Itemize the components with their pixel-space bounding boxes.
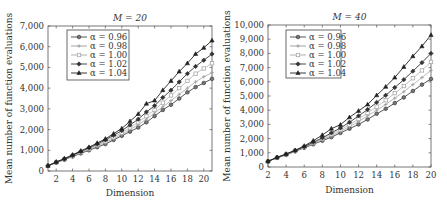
y-tick-label: 0 bbox=[259, 162, 264, 172]
x-tick-label: 6 bbox=[302, 170, 307, 180]
legend: α = 0.96α = 0.98α = 1.00α = 1.02α = 1.04 bbox=[286, 30, 346, 78]
chart-m20: M = 20246810121416182001,0002,0003,0004,… bbox=[4, 13, 214, 198]
y-tick-label: 7,000 bbox=[240, 63, 264, 73]
chart-title: M = 20 bbox=[112, 13, 147, 23]
legend: α = 0.96α = 0.98α = 1.00α = 1.02α = 1.04 bbox=[67, 30, 129, 80]
y-axis-title: Mean number of function evaluations bbox=[4, 13, 14, 185]
x-tick-label: 14 bbox=[371, 170, 382, 180]
x-tick-label: 4 bbox=[70, 174, 75, 184]
y-tick-label: 7,000 bbox=[20, 21, 44, 31]
y-tick-label: 3,000 bbox=[20, 104, 44, 114]
legend-item-label: α = 1.04 bbox=[309, 68, 346, 78]
figure: M = 20246810121416182001,0002,0003,0004,… bbox=[0, 0, 447, 203]
y-tick-label: 9,000 bbox=[240, 34, 264, 44]
y-tick-label: 1,000 bbox=[20, 145, 44, 155]
x-tick-label: 16 bbox=[166, 174, 177, 184]
y-tick-label: 5,000 bbox=[240, 91, 264, 101]
x-tick-label: 14 bbox=[149, 174, 160, 184]
x-tick-label: 10 bbox=[335, 170, 346, 180]
y-tick-label: 1,000 bbox=[240, 148, 264, 158]
y-tick-label: 0 bbox=[39, 166, 44, 176]
chart-title: M = 40 bbox=[332, 12, 367, 22]
y-tick-label: 10,000 bbox=[234, 20, 264, 30]
x-tick-label: 8 bbox=[103, 174, 108, 184]
y-tick-label: 2,000 bbox=[240, 134, 264, 144]
y-tick-label: 2,000 bbox=[20, 125, 44, 135]
y-tick-label: 8,000 bbox=[240, 48, 264, 58]
x-tick-label: 2 bbox=[265, 170, 270, 180]
x-tick-label: 20 bbox=[198, 174, 209, 184]
x-tick-label: 8 bbox=[320, 170, 325, 180]
y-tick-label: 6,000 bbox=[20, 42, 44, 52]
x-tick-label: 12 bbox=[353, 170, 364, 180]
legend-item-label: α = 1.04 bbox=[90, 68, 127, 78]
x-tick-label: 4 bbox=[283, 170, 288, 180]
x-axis-title: Dimension bbox=[106, 188, 155, 198]
y-tick-label: 4,000 bbox=[240, 105, 264, 115]
x-axis-title: Dimension bbox=[325, 185, 374, 195]
x-tick-label: 16 bbox=[389, 170, 400, 180]
x-tick-label: 6 bbox=[86, 174, 91, 184]
y-tick-label: 4,000 bbox=[20, 83, 44, 93]
y-tick-label: 5,000 bbox=[20, 62, 44, 72]
x-tick-label: 18 bbox=[182, 174, 193, 184]
y-tick-label: 6,000 bbox=[240, 77, 264, 87]
x-tick-label: 10 bbox=[116, 174, 127, 184]
x-tick-label: 20 bbox=[426, 170, 437, 180]
x-tick-label: 12 bbox=[133, 174, 144, 184]
y-tick-label: 3,000 bbox=[240, 119, 264, 129]
x-tick-label: 2 bbox=[53, 174, 58, 184]
chart-m40: M = 40246810121416182001,0002,0003,0004,… bbox=[222, 10, 436, 195]
y-axis-title: Mean number of function evaluations bbox=[222, 10, 232, 182]
x-tick-label: 18 bbox=[407, 170, 418, 180]
